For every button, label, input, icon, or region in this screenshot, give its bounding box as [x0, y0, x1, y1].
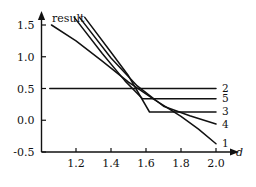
- y-axis-title: result: [52, 12, 85, 25]
- x-tick-label-group: 1.21.41.61.82.0: [67, 157, 225, 170]
- line-chart-plot: 1.21.41.61.82.0 1.51.00.50.0-0.5 12345 r…: [0, 0, 256, 187]
- series-end-label-3: 3: [222, 105, 229, 117]
- y-tick-label: 1.5: [17, 19, 35, 32]
- series-group: [50, 17, 216, 143]
- x-tick-label: 1.6: [137, 157, 155, 170]
- y-tick-label: 0.0: [17, 114, 35, 127]
- x-tick-label: 1.4: [102, 157, 120, 170]
- y-tick-label: 0.5: [17, 83, 35, 96]
- series-end-label-4: 4: [222, 118, 229, 130]
- y-tick-label: -0.5: [13, 146, 34, 159]
- x-tick-label: 1.2: [67, 157, 85, 170]
- y-axis-arrow: [38, 11, 45, 20]
- y-tick-label: 1.0: [17, 51, 35, 64]
- series-end-label-5: 5: [222, 92, 229, 104]
- series-line-5: [74, 17, 216, 98]
- series-end-label-1: 1: [222, 137, 229, 149]
- x-tick-label: 1.8: [172, 157, 190, 170]
- axes-group: [38, 11, 239, 156]
- x-tick-label: 2.0: [207, 157, 225, 170]
- x-axis-title: d: [236, 146, 243, 159]
- y-tick-label-group: 1.51.00.50.0-0.5: [13, 19, 34, 159]
- series-end-label-group: 12345: [222, 82, 229, 149]
- chart-container: 1.21.41.61.82.0 1.51.00.50.0-0.5 12345 r…: [0, 0, 256, 187]
